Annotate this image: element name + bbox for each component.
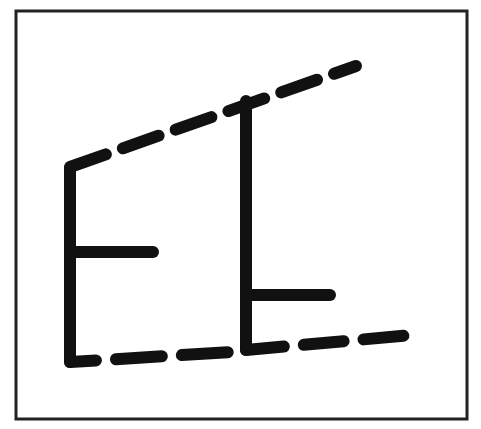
right-e-bottom-dashed [246, 335, 412, 350]
e-figures-diagram [0, 0, 481, 429]
left-e-bottom-dashed [70, 352, 232, 362]
top-dashed-line [70, 66, 356, 167]
left-e-shape [70, 168, 232, 362]
right-e-shape [246, 101, 412, 350]
